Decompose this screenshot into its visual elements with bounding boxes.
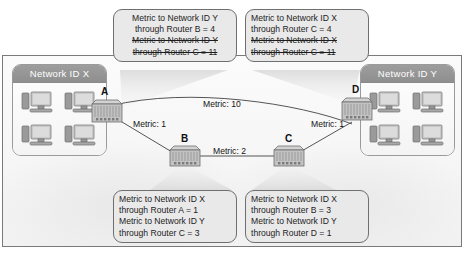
callout-line: Metric to Network ID Y — [119, 13, 231, 24]
link-label-c-d: Metric: 1 — [311, 119, 344, 129]
callout-line: through Router B = 3 — [251, 205, 363, 216]
callout-line-struck: Metric to Network ID Y — [119, 35, 231, 46]
callout-line: through Router B = 4 — [119, 24, 231, 35]
callout-line: Metric to Network ID X — [251, 194, 363, 205]
callout-line-struck: Metric to Network ID X — [251, 35, 363, 46]
router-icon-c[interactable] — [274, 146, 304, 166]
callout-router-b: Metric to Network ID X through Router A … — [113, 190, 237, 243]
router-label-d: D — [352, 84, 359, 95]
router-label-c: C — [285, 133, 292, 144]
callout-line: through Router C = 4 — [251, 24, 363, 35]
link-label-b-c: Metric: 2 — [213, 146, 246, 156]
callout-line: Metric to Network ID X — [251, 13, 363, 24]
router-icon-a[interactable] — [92, 100, 122, 122]
link-label-a-b: Metric: 1 — [133, 119, 166, 129]
figure-canvas: Network ID X Network ID Y — [0, 0, 466, 265]
router-label-a: A — [101, 86, 108, 97]
callout-router-d: Metric to Network ID X through Router C … — [245, 9, 369, 62]
callout-line-struck: through Router C = 11 — [119, 47, 231, 58]
callout-line: Metric to Network ID Y — [119, 216, 231, 227]
callout-line: Metric to Network ID X — [119, 194, 231, 205]
link-label-a-d: Metric: 10 — [203, 99, 241, 109]
callout-line: through Router A = 1 — [119, 205, 231, 216]
callout-line: through Router C = 3 — [119, 228, 231, 239]
callout-router-c: Metric to Network ID X through Router B … — [245, 190, 369, 243]
router-label-b: B — [181, 133, 188, 144]
callout-router-a: Metric to Network ID Y through Router B … — [113, 9, 237, 62]
callout-line: Metric to Network ID Y — [251, 216, 363, 227]
callout-line: through Router D = 1 — [251, 228, 363, 239]
router-icon-b[interactable] — [170, 146, 200, 166]
router-icon-d[interactable] — [342, 98, 372, 120]
callout-line-struck: through Router C = 11 — [251, 47, 363, 58]
